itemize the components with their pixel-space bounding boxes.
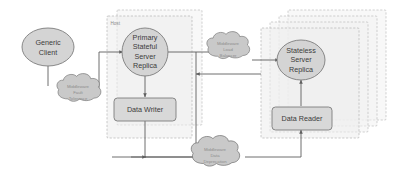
host-container-label: Host <box>111 21 121 26</box>
middleware-load-balancer-label-line2: Load <box>223 47 233 52</box>
stateless-server-replica-label-line1: Stateless <box>286 46 316 55</box>
architecture-diagram: Host Middleware <box>0 0 394 185</box>
middleware-load-balancer-label-line1: Middleware <box>217 41 240 46</box>
primary-stateful-server-replica-label-line3: Server <box>134 52 156 61</box>
primary-stateful-server-replica-label-line1: Primary <box>133 33 158 42</box>
middleware-data-deprecation-label-line1: Middleware <box>204 147 227 152</box>
data-writer-label: Data Writer <box>127 105 164 114</box>
middleware-data-deprecation-label-line3: Deprecation <box>203 159 227 164</box>
middleware-fault-tolerance-label-line2: Fault <box>73 90 83 95</box>
middleware-fault-tolerance-label-line1: Middleware <box>67 84 90 89</box>
middleware-load-balancer-label-line3: Balancer <box>220 53 238 58</box>
middleware-fault-tolerance-label-line3: Tolerance <box>69 96 88 101</box>
primary-stateful-server-replica-label-line2: Stateful <box>133 42 158 51</box>
diagram-canvas: Host Middleware <box>0 0 394 185</box>
data-reader-label: Data Reader <box>282 114 323 123</box>
middleware-data-deprecation-label-line2: Data <box>210 153 220 158</box>
primary-stateful-server-replica-label-line4: Replica <box>133 61 157 70</box>
stateless-server-replica-label-line3: Replica <box>289 65 313 74</box>
generic-client-label-line1: Generic <box>35 38 61 47</box>
generic-client-label-line2: Client <box>39 48 57 57</box>
stateless-server-replica-label-line2: Server <box>290 55 312 64</box>
